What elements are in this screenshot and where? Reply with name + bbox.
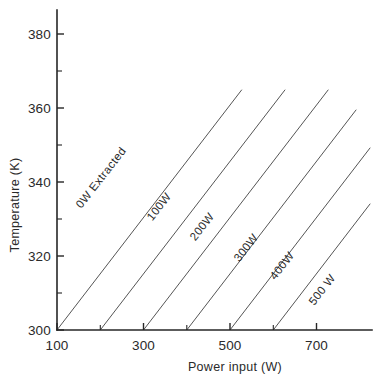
y-tick-label-360: 360 <box>28 101 51 116</box>
line-chart-canvas: 0W Extracted 100W 200W 300W 400W 500 W 3… <box>0 0 380 386</box>
series-label-300w: 300W <box>231 231 260 263</box>
y-axis-ticks <box>57 34 64 330</box>
y-tick-label-320: 320 <box>28 249 51 264</box>
x-tick-label-300: 300 <box>132 338 155 353</box>
x-tick-label-500: 500 <box>218 338 241 353</box>
series-label-500w: 500 W <box>306 272 337 307</box>
series-label-100w: 100W <box>144 190 173 222</box>
y-tick-label-380: 380 <box>28 27 51 42</box>
chart-figure: 0W Extracted 100W 200W 300W 400W 500 W 3… <box>0 0 380 386</box>
x-axis-tick-labels: 100 300 500 700 <box>45 338 328 353</box>
y-tick-label-340: 340 <box>28 175 51 190</box>
series-label-0w-extracted: 0W Extracted <box>73 145 128 211</box>
x-axis-title: Power input (W) <box>188 360 282 374</box>
x-tick-label-100: 100 <box>45 338 68 353</box>
x-tick-label-700: 700 <box>305 338 328 353</box>
y-axis-title: Temperature (K) <box>8 158 22 253</box>
series-label-group: 0W Extracted 100W 200W 300W 400W 500 W <box>73 145 337 307</box>
series-label-400w: 400W <box>267 249 296 281</box>
y-tick-label-300: 300 <box>28 323 51 338</box>
y-axis-tick-labels: 300 320 340 360 380 <box>28 27 51 338</box>
series-label-200w: 200W <box>187 210 216 242</box>
